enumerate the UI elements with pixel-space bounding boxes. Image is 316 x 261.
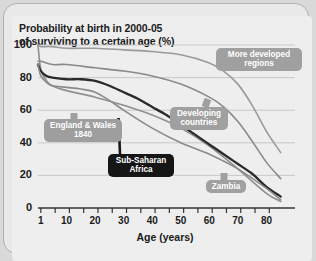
callout-zambia: Zambia [206, 180, 246, 193]
callout-more-developed-regions: More developed regions [216, 48, 302, 71]
callout-ssa-line-2: Africa [113, 165, 169, 174]
callout-developing-line-1: Developing [175, 109, 223, 118]
callout-sub-saharan-africa: Sub-Saharan Africa [108, 154, 174, 177]
x-tick-label-30: 30 [112, 215, 136, 226]
y-tick-label-80: 80 [4, 71, 32, 83]
x-tick-label-50: 50 [169, 215, 193, 226]
callout-developing-countries: Developing countries [170, 107, 228, 130]
x-tick-label-10: 10 [55, 215, 79, 226]
y-tick-label-100: 100 [4, 38, 32, 50]
callout-ssa-line-1: Sub-Saharan [113, 156, 169, 165]
x-tick-label-40: 40 [140, 215, 164, 226]
y-tick-label-40: 40 [4, 136, 32, 148]
chart-x-axis-title: Age (years) [110, 231, 220, 243]
x-tick-label-1: 1 [29, 215, 53, 226]
x-tick-label-20: 20 [83, 215, 107, 226]
callout-more-developed-line-1: More developed [221, 50, 297, 59]
chart-axis-layer [38, 208, 295, 213]
callout-zambia-label: Zambia [211, 182, 241, 191]
y-tick-label-0: 0 [4, 201, 32, 213]
y-tick-label-20: 20 [4, 168, 32, 180]
callout-england-line-2: 1840 [49, 130, 117, 139]
callout-more-developed-line-2: regions [221, 59, 297, 68]
x-tick-label-80: 80 [254, 215, 278, 226]
y-tick-label-60: 60 [4, 103, 32, 115]
callout-england-wales-1840: England & Wales 1840 [44, 119, 122, 142]
x-tick-label-70: 70 [226, 215, 250, 226]
x-tick-label-60: 60 [197, 215, 221, 226]
callout-developing-line-2: countries [175, 118, 223, 127]
callout-england-line-1: England & Wales [49, 121, 117, 130]
